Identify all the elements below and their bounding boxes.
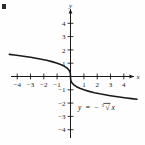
y-tick-label-4: 4 [62,20,66,28]
y-axis-label: y [68,2,73,10]
x-tick-label-1: 1 [82,81,86,89]
equation-radicand: x [111,103,116,112]
x-tick-label-3: 3 [109,81,113,89]
y-axis-arrow [69,9,73,14]
x-axis-arrow [130,75,135,79]
y-tick-label--1: −1 [58,86,66,94]
y-tick-label--4: −4 [58,126,66,134]
x-tick-label--2: −2 [40,81,48,89]
x-tick-label--3: −3 [27,81,35,89]
x-tick-label-4: 4 [122,81,126,89]
y-tick-label-3: 3 [62,33,66,41]
y-tick-label--3: −3 [58,113,66,121]
y-tick-label-2: 2 [62,47,66,55]
x-tick-labels: −4 −3 −2 −1 1 2 3 4 [13,81,126,89]
graph-figure: −4 −3 −2 −1 1 2 3 4 1 2 3 4 −1 −2 −3 −4 … [0,0,145,145]
equation-lhs: y [77,103,82,112]
x-axis-label: x [135,73,140,81]
equation-annotation: y = − 3 √ x [77,100,116,112]
y-tick-label--2: −2 [58,100,66,108]
coordinate-plot: −4 −3 −2 −1 1 2 3 4 1 2 3 4 −1 −2 −3 −4 … [0,0,145,145]
y-tick-labels: 1 2 3 4 −1 −2 −3 −4 [58,20,66,134]
axes-group [11,9,134,138]
x-tick-label-2: 2 [95,81,99,89]
equation-sign: − [94,103,98,112]
x-tick-label--4: −4 [13,81,21,89]
equation-operator: = [86,103,90,112]
radical-symbol-icon: √ [106,103,111,112]
